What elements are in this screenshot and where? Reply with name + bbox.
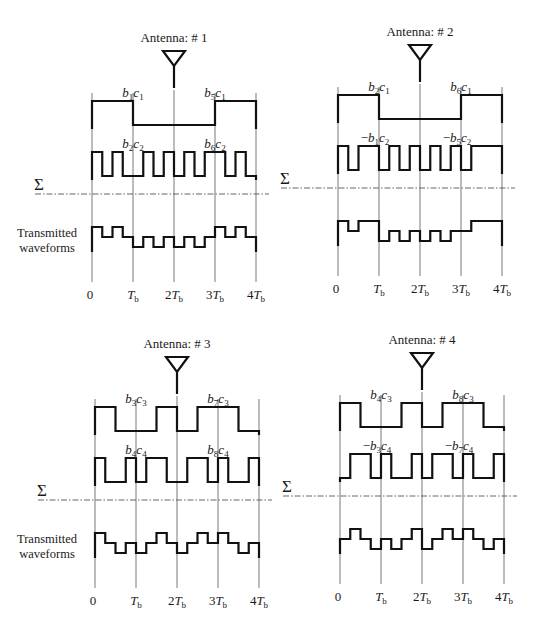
sum-symbol: Σ <box>37 481 47 500</box>
time-tick-1: Tb <box>375 589 387 606</box>
transmitted-waveforms-label: waveforms <box>19 241 75 255</box>
antenna-icon <box>409 45 431 82</box>
code-label-b1c1: b1c1 <box>122 85 143 102</box>
time-tick-3: 3Tb <box>209 593 228 610</box>
antenna-title: Antenna: # 3 <box>143 336 210 351</box>
panel-antenna-1: Antenna: # 1b1c1b5c1b2c2b6c2ΣTransmitted… <box>17 30 269 304</box>
code-label-b4c3: b4c3 <box>370 387 392 404</box>
sum-symbol: Σ <box>34 175 44 194</box>
antenna-title: Antenna: # 4 <box>388 332 456 347</box>
antenna-icon <box>411 353 433 390</box>
time-tick-1: Tb <box>373 281 385 298</box>
spread-waveform-row-2 <box>338 146 502 174</box>
time-tick-0: 0 <box>87 287 94 302</box>
code-label-b8c4: b8c4 <box>207 442 229 459</box>
code-label-b8c3: b8c3 <box>452 387 474 404</box>
time-tick-2: 2Tb <box>413 589 432 606</box>
code-label-b2c1: b2c1 <box>368 79 389 96</box>
time-tick-0: 0 <box>333 281 340 296</box>
spread-waveform-row-2 <box>92 152 256 180</box>
code-label-neg-b7c4: −b7c4 <box>445 438 474 455</box>
sum-symbol: Σ <box>282 477 292 496</box>
transmitted-waveforms-label: Transmitted <box>17 226 78 240</box>
time-tick-0: 0 <box>335 589 342 604</box>
code-label-b7c3: b7c3 <box>207 391 229 408</box>
time-tick-3: 3Tb <box>452 281 471 298</box>
time-tick-2: 2Tb <box>411 281 430 298</box>
code-label-neg-b3c4: −b3c4 <box>363 438 392 455</box>
antenna-title: Antenna: # 1 <box>140 30 207 45</box>
spread-waveform-row-1 <box>340 403 504 431</box>
code-label-b2c2: b2c2 <box>122 136 143 153</box>
code-label-b6c2: b6c2 <box>204 136 225 153</box>
panel-antenna-2: Antenna: # 2b2c1b6c1−b1c2−b5c2Σ0Tb2Tb3Tb… <box>280 24 515 298</box>
time-tick-3: 3Tb <box>454 589 473 606</box>
panel-antenna-4: Antenna: # 4b4c3b8c3−b3c4−b7c4Σ0Tb2Tb3Tb… <box>282 332 517 606</box>
panel-antenna-3: Antenna: # 3b3c3b7c3b4c4b8c4ΣTransmitted… <box>17 336 272 610</box>
code-label-neg-b1c2: −b1c2 <box>361 130 390 147</box>
time-tick-4: 4Tb <box>493 281 512 298</box>
code-label-b5c1: b5c1 <box>204 85 225 102</box>
time-tick-2: 2Tb <box>165 287 184 304</box>
code-label-neg-b5c2: −b5c2 <box>443 130 472 147</box>
code-label-b6c1: b6c1 <box>450 79 471 96</box>
time-tick-1: Tb <box>127 287 139 304</box>
space-time-spreading-diagram: Antenna: # 1b1c1b5c1b2c2b6c2ΣTransmitted… <box>0 0 535 624</box>
antenna-icon <box>163 51 185 88</box>
time-tick-4: 4Tb <box>250 593 269 610</box>
time-tick-0: 0 <box>90 593 97 608</box>
time-tick-4: 4Tb <box>247 287 266 304</box>
spread-waveform-row-2 <box>340 454 504 482</box>
spread-waveform-row-1 <box>95 407 259 435</box>
transmitted-waveforms-label: Transmitted <box>17 532 78 546</box>
antenna-icon <box>166 357 188 394</box>
code-label-b4c4: b4c4 <box>125 442 147 459</box>
code-label-b3c3: b3c3 <box>125 391 147 408</box>
time-tick-4: 4Tb <box>495 589 514 606</box>
sum-symbol: Σ <box>280 169 290 188</box>
antenna-title: Antenna: # 2 <box>386 24 453 39</box>
time-tick-3: 3Tb <box>206 287 225 304</box>
time-tick-2: 2Tb <box>168 593 187 610</box>
transmitted-waveforms-label: waveforms <box>19 547 75 561</box>
time-tick-1: Tb <box>130 593 142 610</box>
